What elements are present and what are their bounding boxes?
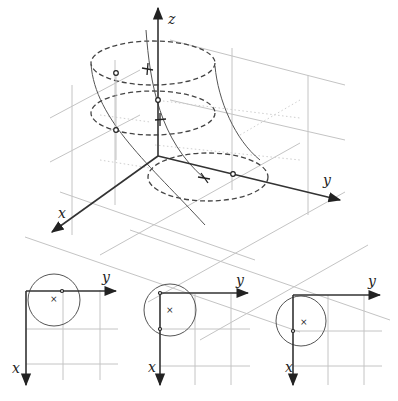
axes-3d: z y x [52,8,340,232]
center-marker: × [166,305,174,315]
top-ellipse [91,41,215,85]
y-axis-label: y [235,272,245,288]
center-marker: × [50,294,58,304]
point-top-left [114,71,119,76]
left-boundary-curve [91,64,205,225]
x-axis-label: x [58,205,66,221]
y-axis-label: y [367,273,377,289]
diagram-canvas: z y x × y x [0,0,398,401]
bottom-ellipse [148,153,268,201]
projection-left: × y x [12,269,118,385]
y-axis-label: y [101,269,111,285]
y-axis-label: y [322,172,332,188]
x-axis-label: x [12,360,20,376]
cross-section-ellipses [91,41,268,201]
point-y-axis [231,172,236,177]
y-axis [158,156,340,200]
middle-ellipse [91,91,215,135]
projection-middle: × y x [144,272,250,385]
right-boundary-curve [215,66,260,160]
x-axis-label: x [285,359,293,375]
z-axis-label: z [167,11,176,27]
x-axis-label: x [148,359,156,375]
center-helix-curve [146,30,204,178]
center-marker: × [300,317,308,327]
point-z-axis [156,98,161,103]
floor-grid [25,143,390,340]
point-mid-left [114,128,119,133]
